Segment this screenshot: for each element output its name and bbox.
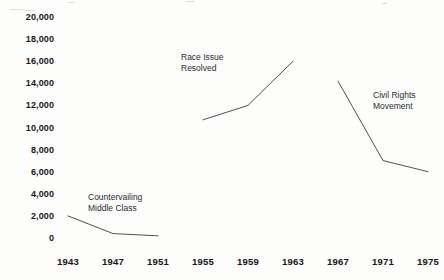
- x-tick-label: 1971: [361, 256, 405, 267]
- annotation-line: Civil Rights: [373, 90, 416, 101]
- y-tick-label: 14,000: [2, 78, 54, 88]
- x-tick-label: 1943: [46, 256, 90, 267]
- x-tick-label: 1959: [226, 256, 270, 267]
- x-tick-label: 1951: [136, 256, 180, 267]
- x-tick-label: 1963: [271, 256, 315, 267]
- annotation-civil-rights-movement: Civil RightsMovement: [373, 90, 416, 111]
- series-line-countervailing-middle-class: [68, 216, 158, 236]
- annotation-line: Countervailing: [88, 192, 142, 203]
- y-tick-label: 6,000: [2, 167, 54, 177]
- x-tick-label: 1947: [91, 256, 135, 267]
- y-tick-label: 10,000: [2, 123, 54, 133]
- y-tick-label: 8,000: [2, 145, 54, 155]
- y-tick-label: 0: [2, 233, 54, 243]
- annotation-countervailing-middle-class: CountervailingMiddle Class: [88, 192, 142, 213]
- annotation-line: Middle Class: [88, 203, 142, 214]
- annotation-line: Resolved: [181, 63, 224, 74]
- annotation-line: Movement: [373, 101, 416, 112]
- y-tick-label: 2,000: [2, 211, 54, 221]
- y-tick-label: 18,000: [2, 34, 54, 44]
- y-tick-label: 12,000: [2, 100, 54, 110]
- y-tick-label: 16,000: [2, 56, 54, 66]
- x-tick-label: 1967: [316, 256, 360, 267]
- y-tick-label: 20,000: [2, 12, 54, 22]
- x-tick-label: 1955: [181, 256, 225, 267]
- annotation-race-issue-resolved: Race IssueResolved: [181, 52, 224, 73]
- x-tick-label: 1975: [406, 256, 444, 267]
- y-tick-label: 4,000: [2, 189, 54, 199]
- annotation-line: Race Issue: [181, 52, 224, 63]
